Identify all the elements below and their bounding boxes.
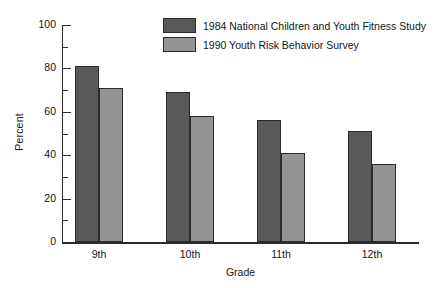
bar-9th-series1 [75,66,99,242]
y-tick-label: 20 [30,193,56,204]
x-axis-title: Grade [62,266,419,278]
bar-11th-series1 [257,120,281,242]
y-tick-label: 60 [30,106,56,117]
y-tick-label: 40 [30,149,56,160]
bar-9th-series2 [99,88,123,242]
x-tick-label-9th: 9th [69,248,129,260]
y-axis-tick-labels: 020406080100 [26,0,56,288]
bar-12th-series1 [348,131,372,242]
y-tick-label: 100 [30,19,56,30]
bar-10th-series1 [166,92,190,242]
y-tick-label: 0 [30,236,56,247]
bar-11th-series2 [281,153,305,242]
bar-12th-series2 [372,164,396,242]
x-tick-label-10th: 10th [160,248,220,260]
x-axis-line [62,242,419,244]
bar-10th-series2 [190,116,214,242]
y-axis-title: Percent [13,97,25,167]
y-tick-label: 80 [30,62,56,73]
x-tick-label-11th: 11th [251,248,311,260]
plot-area [62,25,419,242]
x-tick-label-12th: 12th [342,248,402,260]
bar-chart: 1984 National Children and Youth Fitness… [0,0,444,288]
